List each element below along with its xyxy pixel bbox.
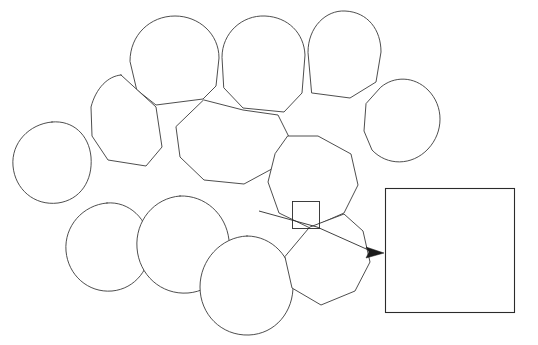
- grain-outline: [130, 16, 219, 105]
- grain-outline: [13, 122, 91, 204]
- grain-structure-figure: [0, 0, 538, 345]
- inset-panel: [385, 188, 515, 313]
- grain-outline: [222, 16, 305, 112]
- grain-outline: [308, 11, 381, 98]
- inset-frame[interactable]: [386, 189, 515, 313]
- figure-root: [0, 0, 538, 345]
